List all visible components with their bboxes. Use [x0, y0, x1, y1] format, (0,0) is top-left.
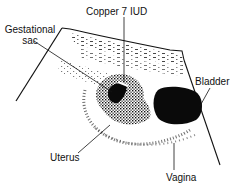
label-vagina: Vagina	[166, 172, 196, 183]
label-uterus: Uterus	[50, 152, 79, 163]
bladder-shape	[154, 87, 203, 124]
label-gestational-sac-line2: sac	[2, 35, 58, 46]
label-gestational-sac: Gestational sac	[2, 24, 58, 46]
ultrasound-diagram: Copper 7 IUD Gestational sac Bladder Ute…	[0, 0, 232, 189]
label-bladder: Bladder	[195, 76, 229, 87]
label-gestational-sac-line1: Gestational	[2, 24, 58, 35]
label-copper-iud: Copper 7 IUD	[86, 6, 147, 17]
